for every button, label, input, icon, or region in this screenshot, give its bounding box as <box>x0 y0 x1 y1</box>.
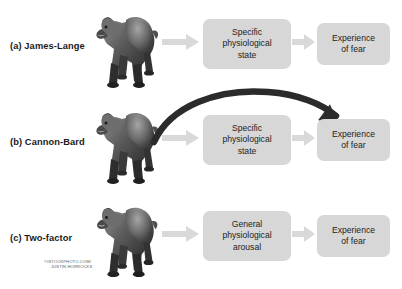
photo-credit-line-2: JUSTIN HORROCKS <box>44 264 118 269</box>
bear-photo-icon <box>92 99 164 187</box>
arrow-state-to-fear-a <box>292 33 316 51</box>
process-box-text-b: Specificphysiologicalstate <box>222 123 271 157</box>
arrow-state-to-fear-b <box>292 129 316 147</box>
photo-credit: ©ISTOCKPHOTO.COM/ JUSTIN HORROCKS <box>44 259 118 270</box>
outcome-box-experience-of-fear-c: Experienceof fear <box>317 215 390 257</box>
outcome-box-text-c: Experienceof fear <box>332 225 375 248</box>
process-box-physiological-state-a: Specificphysiologicalstate <box>203 19 291 69</box>
theory-row-cannon-bard: (b) Cannon-Bard <box>0 96 402 192</box>
arrow-stimulus-to-arousal-c <box>162 225 200 243</box>
process-box-text-a: Specificphysiologicalstate <box>222 27 271 61</box>
outcome-box-experience-of-fear-a: Experienceof fear <box>317 23 390 65</box>
arrow-stimulus-to-state-b <box>162 129 200 147</box>
process-box-physiological-state-b: Specificphysiologicalstate <box>203 115 291 165</box>
outcome-box-experience-of-fear-b: Experienceof fear <box>317 119 390 161</box>
arrow-stimulus-to-state-a <box>162 33 200 51</box>
bear-photo-icon <box>92 3 164 91</box>
process-box-text-c: Generalphysiologicalarousal <box>222 219 271 253</box>
process-box-physiological-arousal-c: Generalphysiologicalarousal <box>203 211 291 261</box>
theory-row-two-factor: (c) Two-factor <box>0 192 402 289</box>
outcome-box-text-a: Experienceof fear <box>332 33 375 56</box>
emotion-theories-diagram: (a) James-Lange <box>0 0 402 289</box>
theory-row-james-lange: (a) James-Lange <box>0 0 402 96</box>
outcome-box-text-b: Experienceof fear <box>332 129 375 152</box>
photo-credit-line-1: ©ISTOCKPHOTO.COM/ <box>44 259 91 264</box>
arrow-arousal-to-fear-c <box>292 225 316 243</box>
